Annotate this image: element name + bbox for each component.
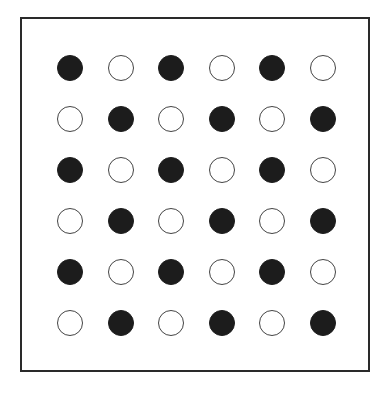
empty-circle-icon bbox=[259, 106, 285, 132]
filled-circle-icon bbox=[57, 55, 83, 81]
filled-circle-icon bbox=[209, 310, 235, 336]
filled-circle-icon bbox=[158, 157, 184, 183]
empty-circle-icon bbox=[57, 106, 83, 132]
empty-circle-icon bbox=[209, 55, 235, 81]
empty-circle-icon bbox=[57, 208, 83, 234]
empty-circle-icon bbox=[108, 55, 134, 81]
filled-circle-icon bbox=[310, 106, 336, 132]
empty-circle-icon bbox=[57, 310, 83, 336]
empty-circle-icon bbox=[209, 157, 235, 183]
filled-circle-icon bbox=[158, 55, 184, 81]
empty-circle-icon bbox=[259, 310, 285, 336]
empty-circle-icon bbox=[209, 259, 235, 285]
filled-circle-icon bbox=[310, 310, 336, 336]
filled-circle-icon bbox=[108, 208, 134, 234]
empty-circle-icon bbox=[108, 259, 134, 285]
empty-circle-icon bbox=[310, 259, 336, 285]
empty-circle-icon bbox=[108, 157, 134, 183]
empty-circle-icon bbox=[158, 106, 184, 132]
empty-circle-icon bbox=[158, 208, 184, 234]
filled-circle-icon bbox=[209, 208, 235, 234]
filled-circle-icon bbox=[108, 310, 134, 336]
empty-circle-icon bbox=[310, 157, 336, 183]
empty-circle-icon bbox=[158, 310, 184, 336]
filled-circle-icon bbox=[57, 157, 83, 183]
filled-circle-icon bbox=[57, 259, 83, 285]
empty-circle-icon bbox=[310, 55, 336, 81]
filled-circle-icon bbox=[108, 106, 134, 132]
filled-circle-icon bbox=[310, 208, 336, 234]
filled-circle-icon bbox=[209, 106, 235, 132]
filled-circle-icon bbox=[259, 259, 285, 285]
filled-circle-icon bbox=[158, 259, 184, 285]
filled-circle-icon bbox=[259, 157, 285, 183]
empty-circle-icon bbox=[259, 208, 285, 234]
filled-circle-icon bbox=[259, 55, 285, 81]
